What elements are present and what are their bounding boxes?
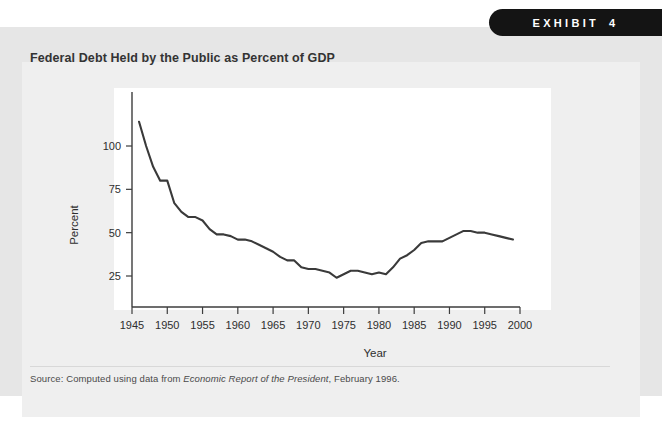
x-tick-label: 1980 xyxy=(367,319,391,331)
y-axis-tick-labels: 255075100 xyxy=(103,140,121,282)
x-tick-label: 1995 xyxy=(472,319,496,331)
x-axis-ticks xyxy=(132,307,520,314)
y-axis-title: Percent xyxy=(68,204,80,244)
source-note: Source: Computed using data from Economi… xyxy=(30,373,400,384)
exhibit-tag-word: EXHIBIT xyxy=(533,17,600,29)
x-tick-label: 1985 xyxy=(402,319,426,331)
x-tick-label: 1965 xyxy=(261,319,285,331)
y-axis: 255075100 Percent xyxy=(68,92,132,307)
exhibit-tag-number: 4 xyxy=(609,17,618,29)
x-tick-label: 1960 xyxy=(226,319,250,331)
x-tick-label: 1955 xyxy=(190,319,214,331)
x-tick-label: 1950 xyxy=(155,319,179,331)
x-tick-label: 1970 xyxy=(296,319,320,331)
source-publication: Economic Report of the President xyxy=(183,373,328,384)
exhibit-tag: EXHIBIT 4 xyxy=(489,9,662,36)
source-suffix: , February 1996. xyxy=(329,373,400,384)
y-axis-ticks xyxy=(126,146,132,276)
y-tick-label: 75 xyxy=(109,183,121,195)
source-divider xyxy=(30,366,610,367)
x-axis-title: Year xyxy=(363,347,386,359)
source-prefix: Source: Computed using data from xyxy=(30,373,183,384)
x-tick-label: 1945 xyxy=(120,319,144,331)
x-tick-label: 1975 xyxy=(331,319,355,331)
y-tick-label: 50 xyxy=(109,227,121,239)
data-series-line xyxy=(139,122,513,278)
chart-svg: 255075100 Percent 1945195019551960196519… xyxy=(0,0,662,423)
x-tick-label: 2000 xyxy=(508,319,532,331)
x-axis-tick-labels: 1945195019551960196519701975198019851990… xyxy=(120,319,532,331)
y-tick-label: 25 xyxy=(109,270,121,282)
y-tick-label: 100 xyxy=(103,140,121,152)
x-axis: 1945195019551960196519701975198019851990… xyxy=(120,307,532,359)
x-tick-label: 1990 xyxy=(437,319,461,331)
